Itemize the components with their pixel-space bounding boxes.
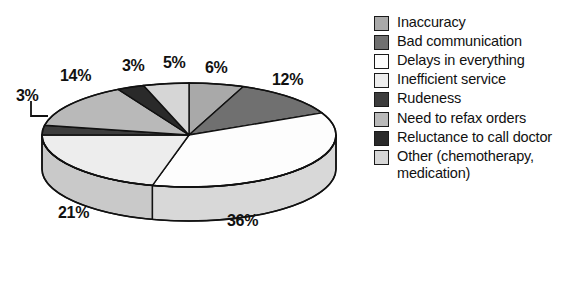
- legend-item-label: Bad communication: [397, 33, 522, 50]
- pie-label-3-rudeness: 3%: [16, 88, 39, 104]
- legend-item-label: Inaccuracy: [397, 14, 466, 31]
- pie-label-6: 6%: [205, 60, 228, 76]
- legend-item-label: Reluctance to call doctor: [397, 129, 552, 146]
- legend-item-label: Other (chemotherapy, medication): [397, 148, 581, 182]
- legend-swatch-icon: [374, 16, 389, 31]
- legend-item-label: Inefficient service: [397, 71, 506, 88]
- legend-item-rudeness[interactable]: Rudeness: [374, 90, 581, 107]
- legend-swatch-icon: [374, 92, 389, 107]
- pie-label-3-reluctance: 3%: [122, 58, 145, 74]
- legend-swatch-icon: [374, 150, 389, 165]
- pie-chart-area: 6% 12% 36% 21% 3% 14% 3% 5%: [0, 0, 370, 299]
- legend-item-other[interactable]: Other (chemotherapy, medication): [374, 148, 581, 182]
- legend-item-reluctance-to-call-doctor[interactable]: Reluctance to call doctor: [374, 129, 581, 146]
- pie-chart-svg: [0, 0, 370, 299]
- legend-item-need-to-refax-orders[interactable]: Need to refax orders: [374, 110, 581, 127]
- legend-item-label: Need to refax orders: [397, 110, 526, 127]
- legend-swatch-icon: [374, 73, 389, 88]
- legend-swatch-icon: [374, 112, 389, 127]
- legend-item-bad-communication[interactable]: Bad communication: [374, 33, 581, 50]
- pie-label-36: 36%: [227, 213, 258, 229]
- legend-item-label: Delays in everything: [397, 52, 525, 69]
- legend-swatch-icon: [374, 54, 389, 69]
- pie-label-21: 21%: [58, 205, 89, 221]
- pie-label-14: 14%: [60, 68, 91, 84]
- legend-item-inefficient-service[interactable]: Inefficient service: [374, 71, 581, 88]
- pie-chart-figure: 6% 12% 36% 21% 3% 14% 3% 5% Inaccuracy B…: [0, 0, 581, 299]
- legend-item-label: Rudeness: [397, 90, 461, 107]
- legend-item-inaccuracy[interactable]: Inaccuracy: [374, 14, 581, 31]
- legend-item-delays-in-everything[interactable]: Delays in everything: [374, 52, 581, 69]
- pie-label-5: 5%: [163, 55, 186, 71]
- legend-swatch-icon: [374, 131, 389, 146]
- chart-legend: Inaccuracy Bad communication Delays in e…: [374, 14, 581, 184]
- pie-label-12: 12%: [272, 72, 303, 88]
- legend-swatch-icon: [374, 35, 389, 50]
